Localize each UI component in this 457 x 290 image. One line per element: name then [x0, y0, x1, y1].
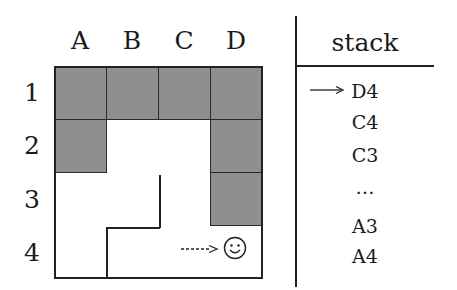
column-label-c: C [158, 26, 210, 56]
stack-item: C3 [330, 143, 400, 167]
stack-divider-vertical [295, 16, 297, 287]
column-label-d: D [210, 26, 262, 56]
stack-item: A3 [330, 214, 400, 238]
column-label-b: B [106, 26, 158, 56]
stack-item: C4 [330, 110, 400, 134]
stack-divider-horizontal [296, 65, 434, 67]
stack-title: stack [300, 28, 430, 58]
maze-wall-c3-right [159, 175, 161, 228]
row-label-3: 3 [18, 185, 46, 215]
dashed-arrow-icon [181, 243, 219, 255]
smiley-icon [223, 236, 247, 260]
maze-wall-b3-bottom [106, 227, 160, 229]
stack-item-top: D4 [330, 79, 400, 103]
row-label-1: 1 [18, 78, 46, 108]
stack-item-ellipsis: … [330, 175, 400, 199]
stack-item-bottom: A4 [330, 244, 400, 268]
row-label-4: 4 [18, 238, 46, 268]
column-label-a: A [54, 26, 106, 56]
maze-wall-b4-left [106, 227, 108, 279]
row-label-2: 2 [18, 131, 46, 161]
